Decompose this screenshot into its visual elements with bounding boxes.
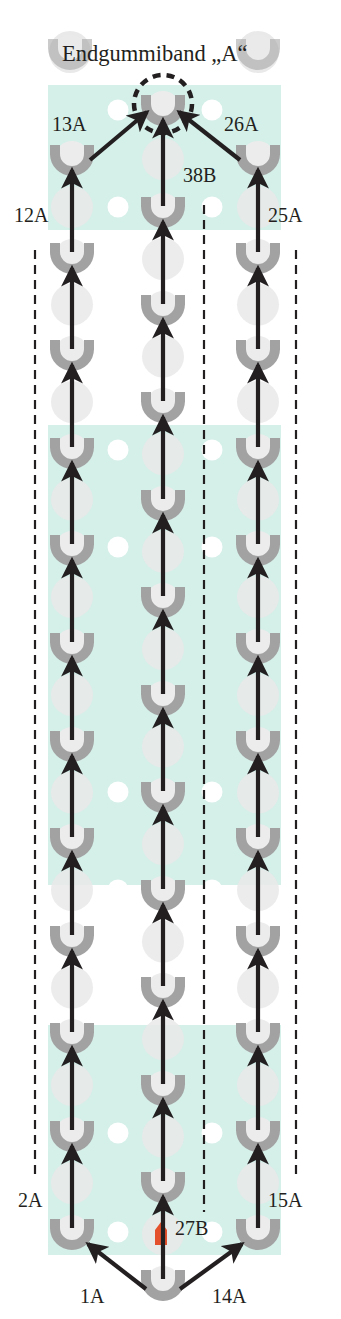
u-stub-right xyxy=(84,1023,94,1033)
u-stub-right xyxy=(175,587,185,597)
u-stub-left xyxy=(50,1219,60,1229)
u-stub-left xyxy=(236,438,246,448)
u-stub-right xyxy=(84,243,94,253)
u-stub-left xyxy=(236,633,246,643)
u-stub-right xyxy=(175,392,185,402)
u-stub-right xyxy=(175,295,185,305)
u-stub-right xyxy=(175,95,185,105)
u-stub-left xyxy=(50,1121,60,1131)
u-stub-right xyxy=(270,731,280,741)
u-stub-left xyxy=(50,1023,60,1033)
u-stub-left xyxy=(141,1270,151,1280)
diagram-title: Endgummiband „A“ xyxy=(62,41,248,66)
peg-label: 14A xyxy=(212,1285,247,1307)
u-stub-left xyxy=(141,977,151,987)
u-stub-left xyxy=(141,392,151,402)
u-stub-left xyxy=(236,1121,246,1131)
u-stub-right xyxy=(175,1172,185,1182)
peg-label: 1A xyxy=(80,1285,105,1307)
u-stub-left xyxy=(141,295,151,305)
u-stub-right xyxy=(270,633,280,643)
u-stub-left xyxy=(50,535,60,545)
u-stub-right xyxy=(270,1219,280,1229)
u-stub-right xyxy=(175,880,185,890)
u-stub-right xyxy=(270,1023,280,1033)
u-stub-right xyxy=(84,828,94,838)
u-stub-right xyxy=(84,731,94,741)
peg-label: 27B xyxy=(175,1217,208,1239)
u-stub-left xyxy=(236,1023,246,1033)
loom-diagram: 13A26A38B12A25A2A15A27B1A14A Endgummiban… xyxy=(0,0,341,1319)
u-stub-left xyxy=(236,340,246,350)
u-stub-left xyxy=(141,587,151,597)
u-stub-left xyxy=(50,438,60,448)
u-stub-left xyxy=(141,685,151,695)
loom-pattern-svg: 13A26A38B12A25A2A15A27B1A14A Endgummiban… xyxy=(0,0,341,1319)
u-stub-right xyxy=(175,197,185,207)
u-stub-right xyxy=(175,1270,185,1280)
peg-label: 2A xyxy=(18,1189,43,1211)
u-stub-right xyxy=(175,977,185,987)
u-stub-left xyxy=(141,782,151,792)
u-stub-right xyxy=(270,39,280,49)
u-stub-left xyxy=(50,145,60,155)
empty-hole-icon xyxy=(202,100,223,121)
u-stub-left xyxy=(236,1219,246,1229)
u-stub-right xyxy=(270,145,280,155)
peg-label: 38B xyxy=(183,164,216,186)
u-stub-right xyxy=(175,490,185,500)
u-stub-left xyxy=(48,39,58,49)
u-stub-right xyxy=(270,438,280,448)
u-stub-right xyxy=(270,535,280,545)
u-stub-left xyxy=(141,1172,151,1182)
empty-hole-icon xyxy=(108,100,129,121)
u-stub-left xyxy=(50,243,60,253)
empty-hole-icon xyxy=(108,782,129,803)
empty-hole-icon xyxy=(108,440,129,461)
u-stub-left xyxy=(236,731,246,741)
u-stub-right xyxy=(84,633,94,643)
u-stub-left xyxy=(236,828,246,838)
peg-label: 15A xyxy=(268,1189,303,1211)
u-stub-left xyxy=(141,880,151,890)
empty-hole-icon xyxy=(108,880,129,901)
u-stub-right xyxy=(84,1219,94,1229)
u-stub-right xyxy=(270,243,280,253)
u-stub-left xyxy=(236,926,246,936)
empty-hole-icon xyxy=(108,537,129,558)
u-stub-left xyxy=(236,145,246,155)
peg-label: 12A xyxy=(14,204,49,226)
u-stub-right xyxy=(175,685,185,695)
u-stub-left xyxy=(50,926,60,936)
empty-hole-icon xyxy=(108,197,129,218)
u-stub-left xyxy=(236,243,246,253)
peg-label: 25A xyxy=(268,204,303,226)
u-stub-right xyxy=(270,926,280,936)
u-stub-left xyxy=(50,633,60,643)
u-stub-right xyxy=(84,340,94,350)
u-stub-right xyxy=(175,782,185,792)
u-stub-right xyxy=(84,926,94,936)
u-stub-left xyxy=(141,197,151,207)
u-stub-left xyxy=(50,340,60,350)
empty-hole-icon xyxy=(108,1123,129,1144)
empty-hole-icon xyxy=(108,1222,129,1243)
peg-label: 13A xyxy=(52,113,87,135)
u-stub-left xyxy=(141,490,151,500)
u-stub-left xyxy=(141,95,151,105)
u-stub-right xyxy=(270,828,280,838)
u-stub-right xyxy=(175,1075,185,1085)
peg-label: 26A xyxy=(224,113,259,135)
u-stub-left xyxy=(50,731,60,741)
u-stub-right xyxy=(84,438,94,448)
u-stub-right xyxy=(270,340,280,350)
u-stub-right xyxy=(270,1121,280,1131)
u-stub-right xyxy=(84,1121,94,1131)
u-stub-left xyxy=(236,535,246,545)
u-stub-left xyxy=(50,828,60,838)
u-stub-right xyxy=(84,145,94,155)
u-stub-right xyxy=(84,535,94,545)
u-stub-left xyxy=(141,1075,151,1085)
